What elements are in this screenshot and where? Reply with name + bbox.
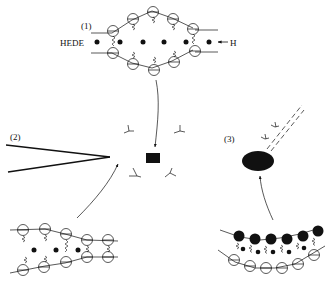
panel-1-label: (1) bbox=[81, 21, 92, 31]
panel-2-label: (2) bbox=[10, 132, 21, 142]
center-black-square bbox=[146, 153, 160, 163]
black-ellipse bbox=[242, 151, 274, 171]
y-shaped-marks bbox=[124, 125, 185, 177]
bottom-right-large-dots bbox=[234, 226, 324, 245]
dashed-line-b bbox=[271, 110, 304, 151]
arrow-bottom-left-to-center bbox=[77, 164, 118, 218]
dashed-line-a bbox=[267, 105, 302, 149]
panel-3-label: (3) bbox=[224, 134, 235, 144]
hede-label: HEDE bbox=[60, 38, 84, 48]
bottom-right-structure bbox=[218, 226, 325, 274]
wedge-upper-line bbox=[6, 145, 110, 157]
arrow-bottom-right-to-ellipse bbox=[260, 176, 273, 220]
h-label: H bbox=[230, 38, 237, 48]
bottom-left-dots bbox=[32, 248, 81, 253]
panel-1-structure: (1) HEDE H bbox=[60, 7, 237, 76]
diagram-canvas: (1) HEDE H bbox=[0, 0, 330, 283]
wedge-lower-line bbox=[8, 157, 110, 172]
panel-1-squiggles bbox=[112, 17, 195, 63]
panel-3-y-marks bbox=[261, 122, 279, 139]
bottom-left-structure bbox=[10, 224, 118, 276]
arrow-panel1-to-center bbox=[155, 80, 158, 147]
panel-3-structure: (3) bbox=[224, 105, 304, 171]
panel-2-structure: (2) bbox=[6, 125, 185, 177]
